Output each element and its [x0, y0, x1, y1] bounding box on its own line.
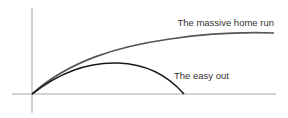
trajectory-diagram: The massive home run The easy out [0, 0, 288, 118]
home-run-label: The massive home run [177, 17, 274, 28]
home-run-curve [32, 33, 274, 94]
easy-out-curve [32, 63, 184, 94]
easy-out-label: The easy out [174, 70, 229, 81]
